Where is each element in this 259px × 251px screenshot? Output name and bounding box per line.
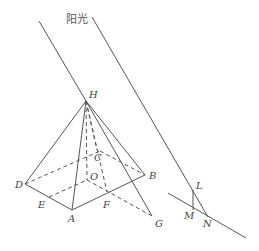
label-H: H <box>88 89 98 100</box>
label-O: O <box>90 171 98 182</box>
edge-CB <box>100 151 145 175</box>
label-A: A <box>67 213 75 224</box>
label-G: G <box>155 218 163 229</box>
edge-DC <box>25 151 100 184</box>
edge-HO <box>86 101 87 180</box>
edge-EO <box>49 180 87 197</box>
label-F: F <box>102 199 111 210</box>
label-C: C <box>94 152 102 163</box>
label-E: E <box>37 199 46 210</box>
ground-line <box>168 193 246 238</box>
label-M: M <box>183 210 195 221</box>
sunlight-label: 阳光 <box>66 12 88 26</box>
geometry-diagram: 阳光 H D A B C O E F G L M N <box>0 0 259 251</box>
label-B: B <box>148 170 156 181</box>
label-L: L <box>195 180 203 191</box>
sun-ray-1 <box>39 21 86 101</box>
edge-DA <box>25 184 72 210</box>
label-N: N <box>202 218 213 229</box>
sun-ray-2 <box>92 17 208 217</box>
label-D: D <box>14 179 23 190</box>
